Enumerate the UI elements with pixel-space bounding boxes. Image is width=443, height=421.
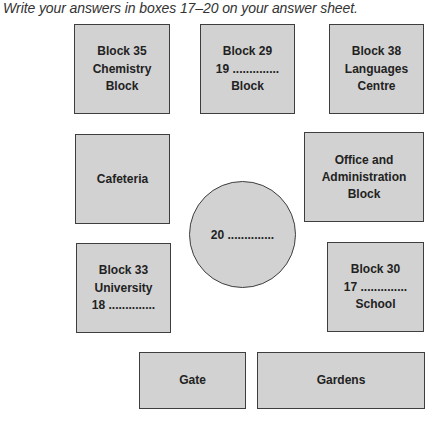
block-33-university: Block 33 University 18 .............. xyxy=(76,243,171,333)
block-30-line3: School xyxy=(355,296,395,313)
block-33-label: Block 33 xyxy=(99,262,148,279)
office-administration-block: Office and Administration Block xyxy=(304,132,424,222)
block-35-label: Block 35 xyxy=(97,43,146,60)
office-line3: Block xyxy=(348,186,381,203)
block-33-line2: University xyxy=(94,280,152,297)
block-35-line2: Chemistry xyxy=(93,61,152,78)
block-29-label: Block 29 xyxy=(223,43,272,60)
block-38-languages-centre: Block 38 Languages Centre xyxy=(329,24,424,114)
gate: Gate xyxy=(139,352,246,409)
answer-blank-18[interactable]: 18 .............. xyxy=(92,297,155,314)
gate-label: Gate xyxy=(179,372,206,389)
centre-circle-question-20: 20 .............. xyxy=(189,181,296,288)
block-38-line3: Centre xyxy=(357,78,395,95)
answer-blank-20[interactable]: 20 .............. xyxy=(211,228,274,242)
gardens: Gardens xyxy=(257,352,425,409)
block-30-label: Block 30 xyxy=(351,261,400,278)
answer-blank-17[interactable]: 17 .............. xyxy=(344,279,407,296)
cafeteria-label: Cafeteria xyxy=(97,171,148,188)
gardens-label: Gardens xyxy=(317,372,366,389)
instruction-text: Write your answers in boxes 17–20 on you… xyxy=(3,0,358,16)
block-35-chemistry: Block 35 Chemistry Block xyxy=(74,24,170,114)
cafeteria: Cafeteria xyxy=(75,134,170,224)
office-line2: Administration xyxy=(322,169,407,186)
block-35-line3: Block xyxy=(106,78,139,95)
block-29-line3: Block xyxy=(231,78,264,95)
block-38-line2: Languages xyxy=(345,61,408,78)
block-29-question-19: Block 29 19 .............. Block xyxy=(200,24,295,114)
answer-blank-19[interactable]: 19 .............. xyxy=(216,61,279,78)
block-38-label: Block 38 xyxy=(352,43,401,60)
office-line1: Office and xyxy=(335,152,394,169)
block-30-school: Block 30 17 .............. School xyxy=(327,242,424,332)
